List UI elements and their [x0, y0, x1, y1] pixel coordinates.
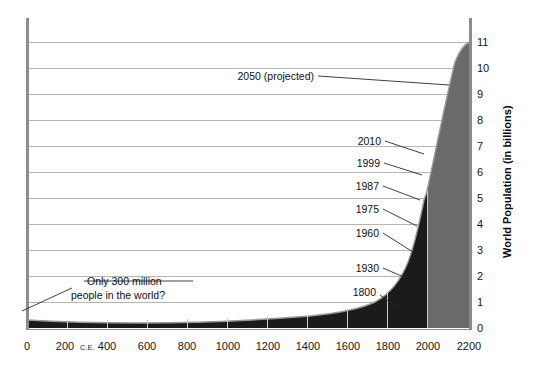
leader-1987 [383, 186, 420, 200]
x-tick-label-400: 400 [98, 340, 116, 352]
annotation-label-2050: 2050 (projected) [238, 70, 314, 82]
leader-1960 [383, 233, 413, 252]
y-tick-label-9: 9 [477, 88, 483, 100]
x-tick-label-0: 0 [24, 340, 30, 352]
annotation-label-1800: 1800 [353, 286, 377, 298]
annotation-label-2010: 2010 [358, 135, 382, 147]
x-tick-label-1200: 1200 [256, 340, 280, 352]
x-tick-label-1600: 1600 [336, 340, 360, 352]
x-tick-label-1800: 1800 [376, 340, 400, 352]
leader-1975 [383, 209, 417, 226]
x-tick-label-800: 800 [178, 340, 196, 352]
x-tick-label-200: 200 [56, 340, 74, 352]
annotation-label-300m-line1: Only 300 million [87, 275, 162, 287]
y-tick-label-1: 1 [477, 296, 483, 308]
y-tick-label-7: 7 [477, 140, 483, 152]
y-tick-label-8: 8 [477, 114, 483, 126]
y-tick-label-6: 6 [477, 166, 483, 178]
population-growth-chart: 11 10 9 8 7 6 5 4 3 2 1 0 World Populati… [0, 0, 534, 372]
annotation-label-300m-line2: people in the world? [71, 289, 165, 301]
leader-2010 [385, 141, 424, 154]
leader-300m-diagonal [22, 288, 72, 311]
y-tick-label-5: 5 [477, 192, 483, 204]
x-tick-label-600: 600 [138, 340, 156, 352]
chart-canvas: 11 10 9 8 7 6 5 4 3 2 1 0 World Populati… [0, 0, 534, 372]
x-tick-label-2200: 2200 [457, 340, 481, 352]
x-tick-label-2000: 2000 [416, 340, 440, 352]
y-tick-labels: 11 10 9 8 7 6 5 4 3 2 1 0 [477, 36, 489, 334]
annotation-labels: 2050 (projected) 2010 1999 1987 1975 196… [71, 70, 381, 301]
annotation-label-1987: 1987 [356, 180, 380, 192]
y-tick-label-0: 0 [477, 322, 483, 334]
y-tick-label-2: 2 [477, 270, 483, 282]
y-tick-label-11: 11 [477, 36, 488, 48]
y-tick-label-3: 3 [477, 244, 483, 256]
leader-2050 [318, 76, 449, 85]
x-tick-label-1400: 1400 [296, 340, 320, 352]
y-tick-label-10: 10 [477, 62, 489, 74]
annotation-label-1930: 1930 [356, 262, 380, 274]
x-tick-label-1000: 1000 [216, 340, 240, 352]
y-axis-title: World Population (in billions) [501, 105, 513, 258]
annotation-label-1960: 1960 [356, 227, 380, 239]
x-axis-era-label: C.E. [80, 343, 95, 352]
leader-1999 [384, 163, 422, 175]
annotation-label-1999: 1999 [357, 157, 381, 169]
y-tick-label-4: 4 [477, 218, 483, 230]
annotation-label-1975: 1975 [356, 203, 380, 215]
